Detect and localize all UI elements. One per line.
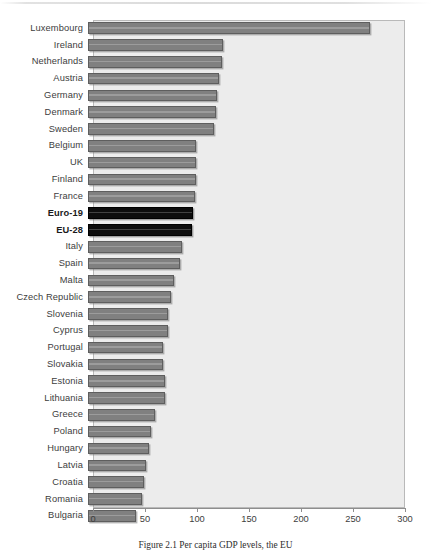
- bar: [88, 375, 165, 387]
- bar: [88, 224, 192, 236]
- bar: [88, 291, 171, 303]
- category-label: UK: [0, 158, 88, 167]
- category-label: Estonia: [0, 377, 88, 386]
- category-label: Denmark: [0, 108, 88, 117]
- category-label: Malta: [0, 276, 88, 285]
- bar-track: [88, 440, 400, 457]
- bar-row: Poland: [0, 424, 431, 441]
- x-axis-tick: [353, 508, 354, 512]
- x-axis-tick-label: 100: [189, 514, 205, 524]
- bar: [88, 426, 151, 438]
- bar-row: Denmark: [0, 104, 431, 121]
- x-axis-tick-label: 150: [241, 514, 257, 524]
- category-label: Austria: [0, 74, 88, 83]
- bar-track: [88, 54, 400, 71]
- bar-row: Ireland: [0, 37, 431, 54]
- bar-track: [88, 138, 400, 155]
- bar: [88, 325, 168, 337]
- bar-row: Germany: [0, 87, 431, 104]
- x-axis-tick: [301, 508, 302, 512]
- bar-track: [88, 306, 400, 323]
- category-label: Latvia: [0, 461, 88, 470]
- bar-track: [88, 373, 400, 390]
- bar: [88, 123, 214, 135]
- bar-row: Cyprus: [0, 323, 431, 340]
- bar: [88, 22, 370, 34]
- category-label: Italy: [0, 242, 88, 251]
- bar-row: Croatia: [0, 474, 431, 491]
- bar-row: Romania: [0, 491, 431, 508]
- category-label: France: [0, 192, 88, 201]
- x-axis-tick-label: 50: [140, 514, 150, 524]
- bar-track: [88, 70, 400, 87]
- bar: [88, 191, 195, 203]
- bar-track: [88, 155, 400, 172]
- bar-track: [88, 424, 400, 441]
- bar-row: Portugal: [0, 339, 431, 356]
- x-axis-tick-label: 250: [345, 514, 361, 524]
- bar-row: Spain: [0, 255, 431, 272]
- bar: [88, 308, 168, 320]
- bar-row: Czech Republic: [0, 289, 431, 306]
- bar: [88, 39, 223, 51]
- category-label: Greece: [0, 410, 88, 419]
- bar: [88, 443, 149, 455]
- bar-row: Luxembourg: [0, 20, 431, 37]
- category-label: Germany: [0, 91, 88, 100]
- bar-track: [88, 339, 400, 356]
- bar-track: [88, 289, 400, 306]
- bar: [88, 174, 196, 186]
- bar-row: Estonia: [0, 373, 431, 390]
- category-label: Poland: [0, 427, 88, 436]
- x-axis-tick: [197, 508, 198, 512]
- bar-row: France: [0, 188, 431, 205]
- bar-track: [88, 407, 400, 424]
- bar: [88, 409, 155, 421]
- bar-row: Euro-19: [0, 205, 431, 222]
- x-axis: 050100150200250300: [93, 508, 405, 509]
- category-label: Spain: [0, 259, 88, 268]
- category-label: Luxembourg: [0, 24, 88, 33]
- bar-track: [88, 188, 400, 205]
- category-label: Hungary: [0, 444, 88, 453]
- category-label: Ireland: [0, 41, 88, 50]
- bar: [88, 342, 163, 354]
- category-label: Euro-19: [0, 209, 88, 218]
- bar-row: Italy: [0, 239, 431, 256]
- bar-track: [88, 356, 400, 373]
- x-axis-tick: [93, 508, 94, 512]
- bar-track: [88, 323, 400, 340]
- x-axis-tick-label: 0: [90, 514, 95, 524]
- category-label: Sweden: [0, 125, 88, 134]
- bar-track: [88, 87, 400, 104]
- bar: [88, 460, 146, 472]
- bar-track: [88, 205, 400, 222]
- bar: [88, 359, 163, 371]
- category-label: EU-28: [0, 226, 88, 235]
- bar-track: [88, 37, 400, 54]
- category-label: Belgium: [0, 141, 88, 150]
- bar: [88, 90, 217, 102]
- bar-row: UK: [0, 155, 431, 172]
- bar-row: Slovakia: [0, 356, 431, 373]
- bar-track: [88, 474, 400, 491]
- bar-row: Slovenia: [0, 306, 431, 323]
- bar-track: [88, 222, 400, 239]
- bar-track: [88, 255, 400, 272]
- bar: [88, 241, 182, 253]
- bar-track: [88, 457, 400, 474]
- bar: [88, 392, 165, 404]
- bar-row: Netherlands: [0, 54, 431, 71]
- bar: [88, 275, 174, 287]
- category-label: Finland: [0, 175, 88, 184]
- category-label: Croatia: [0, 478, 88, 487]
- category-label: Slovenia: [0, 310, 88, 319]
- bar-row: Lithuania: [0, 390, 431, 407]
- category-label: Romania: [0, 495, 88, 504]
- bar-row: Bulgaria: [0, 508, 431, 525]
- category-label: Portugal: [0, 343, 88, 352]
- bar: [88, 476, 144, 488]
- bar-row: Austria: [0, 70, 431, 87]
- bar: [88, 73, 219, 85]
